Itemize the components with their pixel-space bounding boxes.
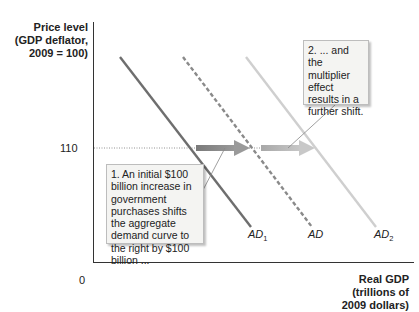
callout-initial-increase: 1. An initial $100 billion increase in g… bbox=[106, 164, 204, 244]
initial-shift-arrow bbox=[196, 140, 250, 156]
origin-label: 0 bbox=[79, 274, 85, 286]
ad1-label: AD1 bbox=[248, 228, 267, 243]
x-axis-label-line: 2009 dollars) bbox=[299, 299, 409, 312]
y-tick-110: 110 bbox=[60, 142, 78, 154]
x-axis-label-line: (trillions of bbox=[299, 286, 409, 299]
ad1-label-sub: 1 bbox=[263, 234, 267, 243]
y-axis-label-line: (GDP deflator, bbox=[0, 34, 88, 47]
y-axis-label-line: 2009 = 100) bbox=[0, 47, 88, 60]
y-axis-label: Price level (GDP deflator, 2009 = 100) bbox=[0, 21, 88, 60]
ad-label-base: AD bbox=[308, 228, 323, 240]
y-axis-label-line: Price level bbox=[0, 21, 88, 34]
ad2-label: AD2 bbox=[374, 228, 393, 243]
ad2-label-base: AD bbox=[374, 228, 389, 240]
ad1-label-base: AD bbox=[248, 228, 263, 240]
ad-label: AD bbox=[308, 228, 323, 240]
callout-multiplier-effect: 2. ... and the multiplier effect results… bbox=[303, 40, 369, 105]
x-axis-label-line: Real GDP bbox=[299, 273, 409, 286]
x-axis-label: Real GDP (trillions of 2009 dollars) bbox=[299, 273, 409, 312]
ad2-label-sub: 2 bbox=[389, 234, 393, 243]
